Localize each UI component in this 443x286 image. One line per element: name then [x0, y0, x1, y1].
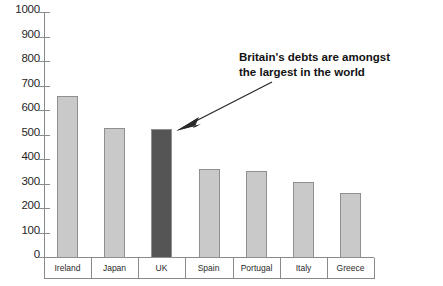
- bar-portugal: [246, 171, 267, 258]
- bar-chart: 10009008007006005004003002001000 Ireland…: [0, 0, 443, 286]
- y-axis-tick-label: 600: [10, 102, 40, 114]
- y-axis-tick-label: 0: [10, 249, 40, 261]
- y-axis-tick-label: 900: [10, 29, 40, 41]
- x-axis-label-greece: Greece: [327, 263, 374, 273]
- bar-italy: [293, 182, 314, 258]
- label-band-separator: [374, 258, 375, 279]
- label-band-baseline: [44, 278, 374, 279]
- bar-ireland: [57, 96, 78, 258]
- y-axis-tick-label: 700: [10, 78, 40, 90]
- x-axis-label-ireland: Ireland: [44, 263, 91, 273]
- x-axis-label-italy: Italy: [280, 263, 327, 273]
- y-axis-tick-label: 1000: [10, 4, 40, 16]
- y-axis-tick-label: 100: [10, 225, 40, 237]
- annotation-arrow-icon: [168, 78, 278, 134]
- x-axis-label-portugal: Portugal: [233, 263, 280, 273]
- y-axis-tick-label: 300: [10, 176, 40, 188]
- bar-japan: [104, 128, 125, 258]
- bar-uk: [151, 129, 172, 258]
- y-axis-tick-label: 500: [10, 127, 40, 139]
- annotation-line-2: the largest in the world: [239, 65, 435, 80]
- y-axis-tick-label: 200: [10, 200, 40, 212]
- y-axis-tick-label: 400: [10, 151, 40, 163]
- bar-spain: [199, 169, 220, 258]
- annotation-line-1: Britain's debts are amongst: [239, 50, 435, 65]
- x-axis-label-band: IrelandJapanUKSpainPortugalItalyGreece: [44, 258, 374, 279]
- y-axis-tick-label: 800: [10, 53, 40, 65]
- x-axis-label-spain: Spain: [185, 263, 232, 273]
- bar-greece: [340, 193, 361, 258]
- x-axis-label-japan: Japan: [91, 263, 138, 273]
- plot-area: [44, 12, 374, 258]
- x-axis-label-uk: UK: [138, 263, 185, 273]
- annotation-callout: Britain's debts are amongst the largest …: [239, 50, 435, 79]
